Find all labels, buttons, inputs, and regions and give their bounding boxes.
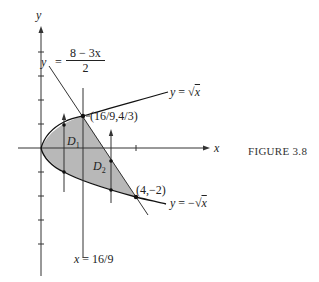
upper-curve-lhs: y [170, 85, 175, 99]
y-axis-label: y [36, 9, 41, 21]
y-axis-arrow-icon [39, 26, 44, 33]
upper-curve-label: y = √x [170, 86, 200, 98]
line-eq-equals: = [55, 56, 62, 68]
point-label-intersection-lower: (4,−2) [136, 184, 166, 196]
line-eq-numerator: 8 − 3x [66, 47, 105, 61]
line-eq-denominator: 2 [82, 61, 88, 74]
lower-curve-label: y = −√x [170, 197, 207, 209]
arrow-up-icon [109, 129, 113, 136]
vertical-line-lhs: x [74, 252, 79, 266]
figure-canvas [0, 0, 319, 282]
lower-curve-sign: − [188, 196, 195, 210]
lower-curve-lhs: y [170, 196, 175, 210]
vertical-line-equals: = [82, 252, 89, 266]
region-d2-name: D [93, 159, 102, 173]
arrow-up-icon [62, 113, 66, 120]
figure-caption: FIGURE 3.8 [248, 145, 307, 157]
line-eq-lhs: y [41, 56, 46, 68]
region-d2-subscript: 2 [102, 166, 106, 175]
x-axis-label: x [214, 142, 219, 154]
point-label-intersection-upper: (16/9,4/3) [90, 110, 138, 122]
region-label-d1: D1 [67, 135, 80, 150]
x-axis-arrow-icon [203, 146, 210, 151]
region-label-d2: D2 [93, 160, 106, 175]
region-d1-subscript: 1 [76, 141, 80, 150]
line-eq-fraction: 8 − 3x 2 [66, 47, 105, 74]
vertical-line-rhs: 16/9 [92, 252, 113, 266]
upper-curve-equals: = [178, 85, 185, 99]
vertical-line-label: x = 16/9 [74, 253, 113, 265]
region-d1-name: D [67, 134, 76, 148]
lower-curve-rhs: x [201, 196, 206, 210]
sqrt-icon: √ [188, 85, 195, 99]
lower-curve-equals: = [178, 196, 185, 210]
upper-curve-rhs: x [195, 85, 200, 99]
